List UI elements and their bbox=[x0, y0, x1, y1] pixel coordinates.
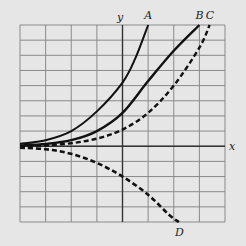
curve-d bbox=[20, 148, 179, 222]
curve-label-d: D bbox=[174, 226, 184, 239]
x-axis-label: x bbox=[229, 140, 236, 153]
curves bbox=[20, 25, 210, 222]
curve-labels: ABCD bbox=[143, 9, 215, 239]
y-axis-label: y bbox=[116, 11, 124, 24]
curve-label-c: C bbox=[206, 9, 215, 22]
curve-label-a: A bbox=[143, 9, 152, 22]
curve-label-b: B bbox=[194, 9, 203, 22]
graph: x y ABCD bbox=[0, 0, 246, 246]
